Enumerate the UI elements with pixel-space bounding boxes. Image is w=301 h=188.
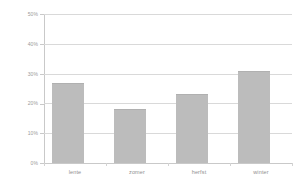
- x-label-herfst: herfst: [168, 169, 230, 176]
- bar-zomer[interactable]: [114, 109, 146, 163]
- y-tick-label-20: 20%: [4, 100, 38, 106]
- plot-area: [44, 14, 292, 163]
- y-tick-label-50: 50%: [4, 11, 38, 17]
- x-tick-mark-4: [292, 163, 293, 166]
- x-label-winter: winter: [230, 169, 292, 176]
- gridline-40: [44, 44, 292, 45]
- x-tick-mark-0: [44, 163, 45, 166]
- y-tick-label-40: 40%: [4, 41, 38, 47]
- y-tick-label-0: 0%: [4, 160, 38, 166]
- gridline-50: [44, 14, 292, 15]
- x-tick-mark-1: [106, 163, 107, 166]
- x-tick-mark-2: [168, 163, 169, 166]
- y-axis-labels: 50% 40% 30% 20% 10% 0%: [0, 0, 38, 188]
- bar-winter[interactable]: [238, 71, 270, 163]
- y-tick-label-10: 10%: [4, 130, 38, 136]
- x-label-zomer: zomer: [106, 169, 168, 176]
- bar-herfst[interactable]: [176, 94, 208, 163]
- bar-chart: 50% 40% 30% 20% 10% 0% lente zomer herfs…: [0, 0, 301, 188]
- x-label-lente: lente: [44, 169, 106, 176]
- x-tick-mark-3: [230, 163, 231, 166]
- y-tick-label-30: 30%: [4, 71, 38, 77]
- bar-lente[interactable]: [52, 83, 84, 163]
